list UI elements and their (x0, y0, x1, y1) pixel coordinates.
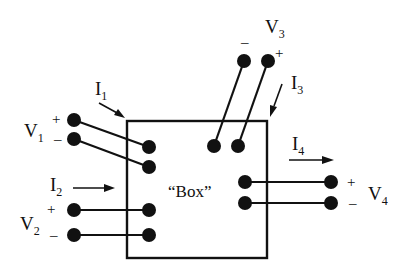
port-3-current-label: I3 (291, 72, 303, 97)
port-4-plus-sign: + (347, 174, 355, 190)
port-4-minus-sign: – (348, 195, 357, 211)
port-1: + – V1 I1 (24, 78, 156, 174)
port-3-plus-sign: + (275, 45, 283, 61)
multiport-box-diagram: “Box” + – V1 I1 + – V2 I2 – (0, 0, 415, 273)
port-2-minus-sign: – (49, 227, 58, 243)
port-3-current-arrow (274, 84, 282, 106)
port-4-inner-minus-terminal (238, 196, 252, 210)
port-4-voltage-label: V4 (368, 183, 388, 208)
port-2-inner-minus-terminal (142, 228, 156, 242)
port-3-voltage-label: V3 (265, 16, 285, 41)
port-1-minus-sign: – (53, 131, 62, 147)
port-2-inner-plus-terminal (142, 203, 156, 217)
port-2: + – V2 I2 (20, 174, 156, 243)
port-3-minus-terminal (237, 54, 251, 68)
port-3: – + V3 I3 (207, 16, 303, 153)
port-4-plus-terminal (324, 175, 338, 189)
diagram-svg: “Box” + – V1 I1 + – V2 I2 – (0, 0, 415, 273)
port-1-arrowhead-icon (114, 109, 125, 118)
port-2-current-label: I2 (50, 174, 62, 199)
port-4-minus-terminal (324, 196, 338, 210)
port-1-inner-plus-terminal (142, 140, 156, 154)
port-3-minus-sign: – (240, 34, 249, 50)
port-4-current-label: I4 (292, 133, 304, 158)
port-1-inner-minus-terminal (142, 160, 156, 174)
port-1-plus-sign: + (52, 111, 60, 127)
port-2-arrowhead-icon (104, 184, 115, 192)
port-1-voltage-label: V1 (24, 120, 44, 145)
port-3-plus-terminal (261, 54, 275, 68)
port-1-plus-terminal (67, 113, 81, 127)
port-3-inner-plus-terminal (231, 139, 245, 153)
port-2-minus-terminal (67, 228, 81, 242)
port-4: + – V4 I4 (238, 133, 388, 211)
port-1-minus-terminal (67, 132, 81, 146)
box-label: “Box” (168, 182, 211, 201)
port-3-arrowhead-icon (270, 105, 277, 117)
port-4-arrowhead-icon (322, 156, 334, 164)
port-3-minus-wire (214, 61, 244, 146)
port-2-voltage-label: V2 (20, 213, 40, 238)
port-4-inner-plus-terminal (238, 175, 252, 189)
port-2-plus-sign: + (47, 201, 55, 217)
port-3-inner-minus-terminal (207, 139, 221, 153)
port-3-plus-wire (238, 61, 268, 146)
port-1-current-label: I1 (95, 78, 107, 103)
port-2-plus-terminal (67, 203, 81, 217)
